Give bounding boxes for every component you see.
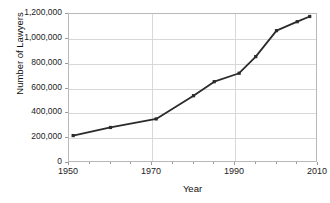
y-axis-tick-label: 800,000	[0, 58, 62, 67]
x-axis-minor-tick-mark	[110, 162, 111, 164]
data-point-marker	[155, 117, 158, 120]
series-line-number-of-lawyers	[73, 16, 310, 135]
x-axis-minor-tick-mark	[172, 162, 173, 164]
x-axis-minor-tick-mark	[296, 162, 297, 164]
x-axis-title: Year	[68, 183, 317, 194]
x-axis-tick-mark	[317, 162, 318, 165]
data-point-marker	[109, 126, 112, 129]
y-axis-tick-label: 400,000	[0, 107, 62, 116]
y-axis-tick-label: 0	[0, 157, 62, 166]
y-axis-tick-label: 1,200,000	[0, 8, 62, 17]
data-point-marker	[72, 134, 75, 137]
data-point-marker	[192, 94, 195, 97]
data-point-marker	[296, 20, 299, 23]
y-axis-tick-label: 1,000,000	[0, 33, 62, 42]
series-layer	[69, 14, 318, 163]
y-axis-tick-label: 600,000	[0, 83, 62, 92]
data-point-marker	[238, 72, 241, 75]
y-axis-tick-label: 200,000	[0, 132, 62, 141]
data-point-marker	[275, 29, 278, 32]
data-point-marker	[254, 55, 257, 58]
x-axis-minor-tick-mark	[255, 162, 256, 164]
data-point-marker	[213, 80, 216, 83]
x-axis-tick-mark	[151, 162, 152, 165]
x-axis-tick-label: 2010	[297, 166, 330, 177]
x-axis-minor-tick-mark	[89, 162, 90, 164]
lawyers-line-chart: Number of Lawyers 0200,000400,000600,000…	[0, 0, 330, 203]
x-axis-tick-label: 1950	[48, 166, 88, 177]
data-point-marker	[308, 15, 311, 18]
plot-area	[68, 13, 317, 162]
x-axis-tick-label: 1990	[214, 166, 254, 177]
x-axis-tick-label: 1970	[131, 166, 171, 177]
x-axis-minor-tick-mark	[193, 162, 194, 164]
x-axis-minor-tick-mark	[276, 162, 277, 164]
x-axis-tick-mark	[68, 162, 69, 165]
x-axis-tick-mark	[234, 162, 235, 165]
x-axis-minor-tick-mark	[213, 162, 214, 164]
x-axis-minor-tick-mark	[130, 162, 131, 164]
